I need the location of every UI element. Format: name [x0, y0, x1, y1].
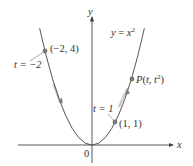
point-1-1-coord-label: (1, 1)	[119, 118, 142, 130]
parametric-parabola-diagram: y = x2 (−2, 4) t = −2 (1, 1) t = 1 P(t, …	[0, 0, 193, 166]
point-neg2-4-param-label: t = −2	[14, 59, 42, 70]
point-P-label: P(t, t2)	[135, 73, 165, 86]
leader-line-t-1	[108, 114, 115, 122]
point-1-1-param-label: t = 1	[93, 103, 114, 114]
origin-label: 0	[84, 148, 89, 159]
x-axis-label: x	[176, 139, 182, 150]
point-neg2-4-coord-label: (−2, 4)	[50, 43, 79, 55]
y-axis-label: y	[87, 6, 93, 17]
curve-equation-label: y = x2	[110, 26, 136, 38]
point-P	[130, 77, 135, 82]
